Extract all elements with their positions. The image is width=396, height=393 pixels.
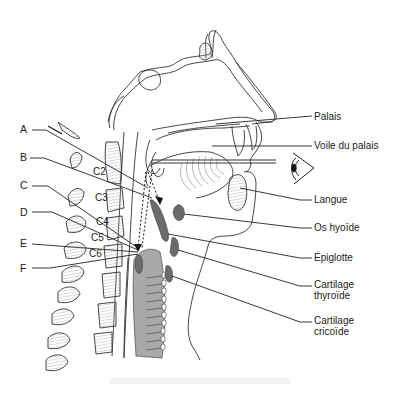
- label-C: C: [20, 180, 28, 191]
- label-cartilage-cricoide-line2: cricoïde: [314, 326, 349, 337]
- label-F: F: [20, 263, 26, 274]
- label-cartilage-thyroide-line2: thyroïde: [314, 290, 350, 301]
- label-voile-du-palais: Voile du palais: [314, 140, 379, 151]
- vertebra-label-c2: C2: [93, 166, 106, 177]
- laryngoscope-line-of-sight: [146, 160, 276, 186]
- vertebra-label-c4: C4: [96, 216, 109, 227]
- right-leader-lines: [168, 116, 312, 322]
- vertebra-label-c6: C6: [89, 248, 102, 259]
- anatomy-diagram: A B C D E F C2 C3 C4 C5 C6 Palais Voile …: [0, 0, 396, 393]
- label-epiglotte: Épiglotte: [314, 252, 353, 263]
- left-leader-lines: [30, 126, 152, 268]
- label-cartilage-cricoide-line1: Cartilage: [314, 315, 354, 326]
- larynx-trachea: [124, 249, 166, 358]
- faded-caption-strip: [110, 378, 290, 384]
- label-A: A: [20, 124, 27, 135]
- label-palais: Palais: [314, 111, 341, 122]
- label-B: B: [20, 152, 27, 163]
- label-os-hyoide: Os hyoïde: [314, 222, 360, 233]
- eye-icon: [292, 153, 315, 184]
- label-cartilage-thyroide-line1: Cartilage: [314, 279, 354, 290]
- skull-outline: [108, 30, 276, 360]
- label-langue: Langue: [314, 194, 347, 205]
- vertebra-label-c3: C3: [95, 192, 108, 203]
- spinous-processes: [46, 153, 86, 371]
- label-E: E: [20, 238, 27, 249]
- label-D: D: [20, 207, 28, 218]
- vertebra-label-c5: C5: [91, 232, 104, 243]
